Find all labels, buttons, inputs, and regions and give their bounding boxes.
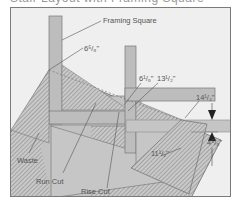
framing-square-left [49,16,134,124]
diagram-frame: Framing Square 6⁵/₈" 6¹/₈" 13¹/₂" 14¹/₂"… [10,7,231,197]
stair-stringer-diagram: Framing Square 6⁵/₈" 6¹/₈" 13¹/₂" 14¹/₂"… [11,8,231,197]
label-run-cut: Run Cut [36,177,64,186]
label-dim-6-1-8: 6¹/₈" [139,74,154,83]
label-dim-14-1-2: 14¹/₂" [196,93,215,102]
label-rise-cut: Rise Cut [81,187,111,196]
label-waste: Waste [17,156,38,165]
label-dim-4-5-8: 4⁵/₈" [207,138,222,147]
label-dim-13-1-2: 13¹/₂" [157,74,176,83]
waste-area-left [11,70,49,143]
cropped-header-text: Stair Layout with Framing Square [10,0,204,5]
label-dim-6-5-8: 6⁵/₈" [84,44,99,53]
label-framing-square: Framing Square [103,16,157,25]
label-dim-11-1-2: 11¹/₂" [151,149,169,158]
